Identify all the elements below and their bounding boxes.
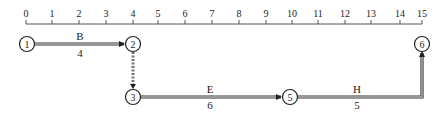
node-2: 2: [126, 37, 141, 52]
tick-label: 10: [287, 8, 297, 19]
tick-label: 14: [395, 8, 405, 19]
timeline-axis: 0123456789101112131415: [24, 8, 428, 24]
activity-h-arrow: H 5: [298, 51, 425, 111]
node-3: 3: [126, 90, 141, 105]
tick-label: 3: [104, 8, 109, 19]
tick-label: 1: [50, 8, 55, 19]
tick-label: 11: [313, 8, 323, 19]
tick-label: 7: [210, 8, 215, 19]
tick-label: 6: [183, 8, 188, 19]
tick-label: 2: [77, 8, 82, 19]
tick-label: 13: [366, 8, 376, 19]
node-1: 1: [20, 37, 35, 52]
dummy-activity-arrow: [130, 52, 136, 89]
tick-label: 4: [131, 8, 136, 19]
activity-e-arrow: E 6: [141, 83, 282, 111]
activity-h-duration: 5: [354, 99, 360, 111]
activity-e-duration: 6: [207, 99, 213, 111]
node-2-label: 2: [131, 39, 136, 50]
activity-e-name: E: [207, 83, 214, 95]
activity-b-name: B: [76, 30, 83, 42]
network-diagram: 0123456789101112131415 B 4 E 6 H 5 1 2: [0, 0, 447, 113]
node-6-label: 6: [420, 39, 425, 50]
tick-label: 5: [156, 8, 161, 19]
node-1-label: 1: [25, 39, 30, 50]
activity-h-name: H: [353, 83, 361, 95]
tick-label: 15: [417, 8, 427, 19]
tick-label: 0: [24, 8, 29, 19]
node-5-label: 5: [288, 92, 293, 103]
node-6: 6: [415, 37, 430, 52]
tick-label: 8: [237, 8, 242, 19]
node-3-label: 3: [131, 92, 136, 103]
node-5: 5: [283, 90, 298, 105]
tick-label: 9: [264, 8, 269, 19]
tick-label: 12: [340, 8, 350, 19]
activity-b-arrow: B 4: [35, 30, 125, 59]
activity-b-duration: 4: [77, 47, 83, 59]
